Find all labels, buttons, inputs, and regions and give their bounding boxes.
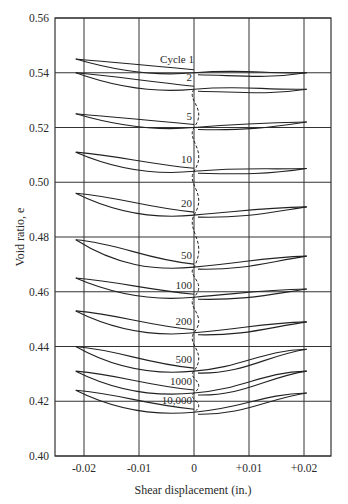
cycle-label: 20: [181, 197, 193, 209]
cycle-label: 10,000: [162, 394, 193, 406]
y-tick-label: 0.42: [29, 395, 49, 407]
y-tick-label: 0.50: [29, 176, 49, 188]
y-tick-label: 0.56: [29, 12, 49, 24]
y-axis-label: Void ratio, e: [13, 208, 27, 267]
cycle-label: 50: [181, 249, 193, 261]
x-tick-label: +0.01: [236, 462, 263, 474]
cycle-label: 1000: [170, 375, 193, 387]
y-tick-label: 0.52: [29, 122, 49, 134]
y-tick-label: 0.44: [29, 341, 49, 353]
cycle-label: 10: [181, 153, 193, 165]
cycle-labels: Cycle 125102050100200500100010,000: [160, 53, 194, 406]
cycle-label: 200: [176, 315, 193, 327]
y-tick-label: 0.46: [29, 286, 49, 298]
cycle-label: 500: [176, 353, 193, 365]
x-tick-label: 0: [191, 462, 197, 474]
x-tick-label: -0.02: [72, 462, 96, 474]
x-tick-label: -0.01: [127, 462, 151, 474]
cycle-label: 5: [187, 110, 193, 122]
cycle-label: 100: [176, 279, 193, 291]
y-tick-label: 0.40: [29, 450, 49, 462]
x-tick-label: +0.02: [291, 462, 318, 474]
cycle-label: Cycle 1: [160, 53, 194, 65]
void-ratio-chart: 0.400.420.440.460.480.500.520.540.56-0.0…: [0, 0, 348, 504]
x-axis-label: Shear displacement (in.): [135, 483, 252, 497]
cycle-label: 2: [187, 71, 193, 83]
y-tick-label: 0.54: [29, 67, 49, 79]
y-tick-label: 0.48: [29, 231, 49, 243]
zero-displacement-trace: [192, 89, 199, 412]
